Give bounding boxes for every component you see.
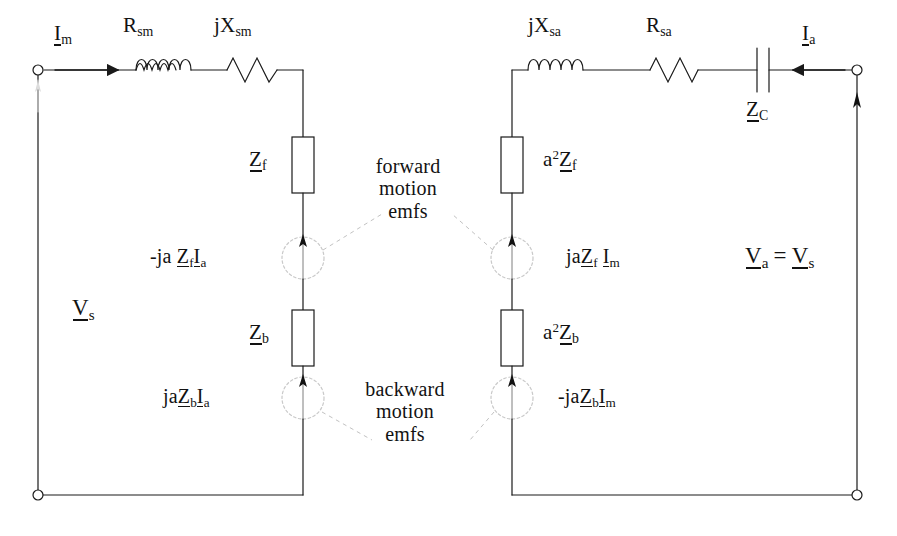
label-a2-z-f-prefix: a [543, 147, 553, 171]
label-current-aux: Ia [802, 22, 815, 48]
label-source-forward-aux: jaZfIm [566, 245, 620, 271]
label-jx-sm: jXsm [214, 14, 252, 40]
terminal-bottom-right [852, 490, 862, 500]
label-source-backward-aux: -jaZbIm [558, 385, 616, 411]
label-current-aux-main: I [802, 22, 809, 47]
note-backward-line1: backward [340, 378, 470, 400]
label-z-b-main: Z [249, 321, 262, 346]
note-forward-line1: forward [348, 155, 468, 177]
label-v-s: Vs [72, 295, 95, 323]
resistor-aux [650, 58, 698, 82]
terminal-bottom-left [33, 490, 43, 500]
label-v-s-sub: s [89, 306, 95, 323]
block-zb [292, 310, 314, 366]
note-forward-line3: emfs [348, 200, 468, 222]
note-backward-motion-emfs: backward motion emfs [340, 378, 470, 445]
label-jx-sa: jXsa [528, 14, 561, 40]
label-source-forward-main-text: -jaZfIa [150, 245, 206, 267]
note-backward-line3: emfs [340, 423, 470, 445]
block-zf [292, 137, 314, 193]
label-current-main-main: I [54, 22, 61, 47]
label-z-c-sub: C [759, 108, 768, 123]
label-current-main-sub: m [61, 32, 72, 47]
label-z-c: ZC [746, 98, 768, 124]
circuit-diagram: Im Rsm jXsm jXsa Rsa Ia ZC Zf Zb a2Zf a2… [0, 0, 897, 536]
label-r-sm-main: R [123, 13, 137, 37]
leader-backward-right [470, 412, 494, 440]
label-r-sm-sub: sm [137, 24, 153, 39]
label-jx-sm-main: jX [214, 13, 235, 37]
label-a2-z-b-prefix: a [543, 320, 553, 344]
label-current-main: Im [54, 22, 72, 48]
label-a2-z-f-main: Z [559, 148, 572, 173]
label-jx-sm-sub: sm [235, 24, 251, 39]
label-r-sm: Rsm [123, 14, 153, 40]
label-current-aux-sub: a [809, 32, 815, 47]
label-v-a-eq-v-s: Va=Vs [745, 243, 814, 271]
label-r-sa-main: R [646, 13, 660, 37]
label-z-f-sub: f [262, 158, 267, 173]
resistor-main [227, 58, 277, 82]
note-forward-line2: motion [348, 177, 468, 199]
terminal-top-left [33, 65, 43, 75]
label-source-backward-main: jaZbIa [163, 385, 210, 411]
label-r-sa: Rsa [646, 14, 672, 40]
label-a2-z-b: a2Zb [543, 321, 579, 347]
label-a2-z-f: a2Zf [543, 148, 577, 174]
note-backward-line2: motion [340, 400, 470, 422]
label-jx-sa-sub: sa [549, 24, 561, 39]
label-a2-z-b-sub: b [572, 331, 579, 346]
inductor-aux [528, 60, 583, 71]
terminal-top-right [852, 65, 862, 75]
note-forward-motion-emfs: forward motion emfs [348, 155, 468, 222]
label-r-sa-sub: sa [660, 24, 672, 39]
label-a2-z-f-sub: f [572, 158, 577, 173]
label-source-backward-main-text: jaZbIa [163, 385, 210, 407]
block-a2zf [501, 137, 523, 193]
label-z-c-main: Z [746, 98, 759, 123]
label-source-forward-aux-text: jaZfIm [566, 245, 620, 267]
label-a2-z-b-main: Z [559, 321, 572, 346]
label-jx-sa-main: jX [528, 13, 549, 37]
label-z-b-sub: b [262, 331, 269, 346]
label-v-s-main: V [72, 295, 89, 322]
label-source-backward-aux-text: -jaZbIm [558, 385, 616, 407]
label-z-b: Zb [249, 321, 269, 347]
label-z-f-main: Z [249, 148, 262, 173]
label-source-forward-main: -jaZfIa [150, 245, 206, 271]
label-z-f: Zf [249, 148, 267, 174]
block-a2zb [501, 310, 523, 366]
